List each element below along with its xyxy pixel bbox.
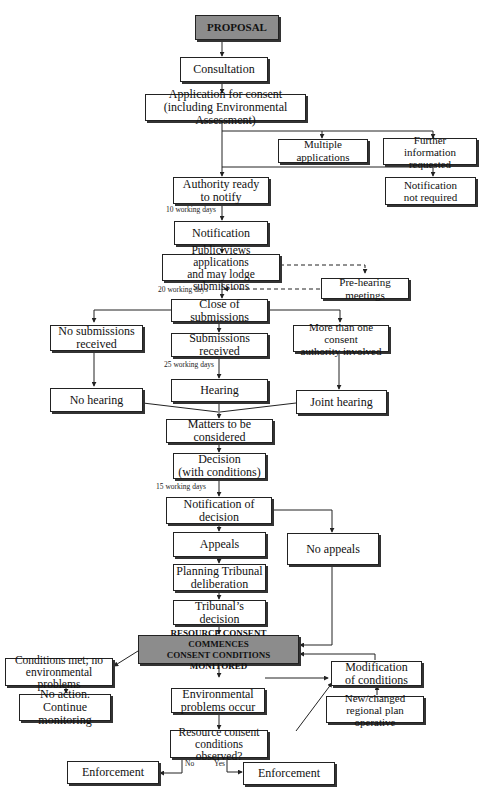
node-no-submissions: No submissions received	[50, 325, 143, 351]
node-no-hearing: No hearing	[50, 388, 143, 412]
arrow-noappeals-resource	[300, 565, 332, 645]
node-matters: Matters to be considered	[166, 419, 273, 443]
node-enforcement-yes: Enforcement	[243, 762, 335, 785]
node-environmental-problems: Environmental problems occur	[171, 688, 265, 713]
node-no-action: No action. Continue monitoring	[19, 694, 111, 721]
node-notification-decision: Notification of decision	[166, 497, 272, 524]
node-enforcement-no: Enforcement	[67, 761, 159, 784]
node-tribunal-deliberation: Planning Tribunal deliberation	[173, 564, 266, 591]
node-modification: Modification of conditions	[331, 661, 422, 686]
node-hearing: Hearing	[171, 379, 268, 402]
node-pre-hearing: Pre-hearing meetings	[321, 278, 409, 299]
node-notification-not-required: Notification not required	[385, 177, 476, 205]
node-conditions-met: Conditions met; no environmental problem…	[5, 658, 113, 686]
node-joint-hearing: Joint hearing	[296, 390, 387, 414]
label-yes: Yes	[214, 759, 225, 768]
node-appeals: Appeals	[173, 532, 266, 557]
arrow-resource-conditionsmet	[114, 651, 138, 666]
arrow-joint-matters	[220, 403, 296, 412]
arrow-notifdecision-noappeals	[272, 510, 332, 532]
label-no: No	[185, 759, 194, 768]
dashed-public-prehearing	[280, 265, 365, 273]
note-15-working-days: 15 working days	[156, 482, 206, 491]
node-conditions-observed: Resource consent conditions observed?	[170, 730, 268, 758]
note-20-working-days: 20 working days	[158, 285, 208, 294]
node-public-views: Public views applications and may lodge …	[162, 254, 280, 281]
arrow-nohearing-matters	[143, 403, 218, 412]
node-new-plan: New/changed regional plan operative	[326, 696, 424, 723]
node-close-submissions: Close of submissions	[171, 299, 268, 322]
node-more-than-one: More than one consent authority involved	[293, 325, 389, 352]
node-notification: Notification	[174, 221, 268, 245]
node-application: Application for consent (including Envir…	[145, 94, 306, 121]
note-10-working-days: 10 working days	[166, 205, 216, 214]
node-resource-consent: RESOURCE CONSENT COMMENCES CONSENT CONDI…	[138, 635, 299, 664]
arrow-close-nosub	[94, 310, 171, 322]
node-no-appeals: No appeals	[287, 533, 379, 565]
node-consultation: Consultation	[180, 57, 268, 82]
note-25-working-days: 25 working days	[164, 360, 214, 369]
node-proposal: PROPOSAL	[195, 15, 279, 40]
node-authority-ready: Authority ready to notify	[173, 177, 269, 204]
node-multiple-applications: Multiple applications	[278, 139, 368, 163]
node-further-information: Further information requested	[383, 138, 477, 165]
node-tribunal-decision: Tribunal’s decision	[173, 600, 266, 625]
node-submissions-received: Submissions received	[171, 333, 268, 357]
node-decision: Decision (with conditions)	[173, 453, 266, 479]
